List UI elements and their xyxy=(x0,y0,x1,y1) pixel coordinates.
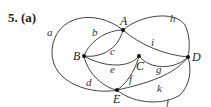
edge-label-e: e xyxy=(110,63,115,75)
edge-i xyxy=(123,30,188,57)
edge-h xyxy=(123,16,189,57)
vertex-B xyxy=(82,54,86,58)
vertex-D xyxy=(186,55,190,59)
vertex-C xyxy=(137,54,141,58)
vertex-label-D: D xyxy=(191,50,201,64)
edge-label-a: a xyxy=(47,26,53,38)
edge-label-i: i xyxy=(151,36,154,48)
edge-label-d: d xyxy=(86,76,92,88)
vertex-label-B: B xyxy=(73,49,81,63)
vertex-label-C: C xyxy=(136,59,145,73)
edge-label-h: h xyxy=(170,12,176,24)
edge-label-b: b xyxy=(92,26,98,38)
edge-label-g: g xyxy=(156,63,162,75)
vertex-label-A: A xyxy=(119,14,128,28)
edge-c xyxy=(84,30,123,56)
graph-diagram: A B C D E a b c d e f g h i j k xyxy=(0,0,211,107)
edge-label-k: k xyxy=(157,82,163,94)
edge-k xyxy=(117,57,188,90)
vertex-A xyxy=(121,28,125,32)
vertex-label-E: E xyxy=(112,92,121,106)
edge-label-f: f xyxy=(129,73,134,85)
edge-label-c: c xyxy=(110,45,115,57)
